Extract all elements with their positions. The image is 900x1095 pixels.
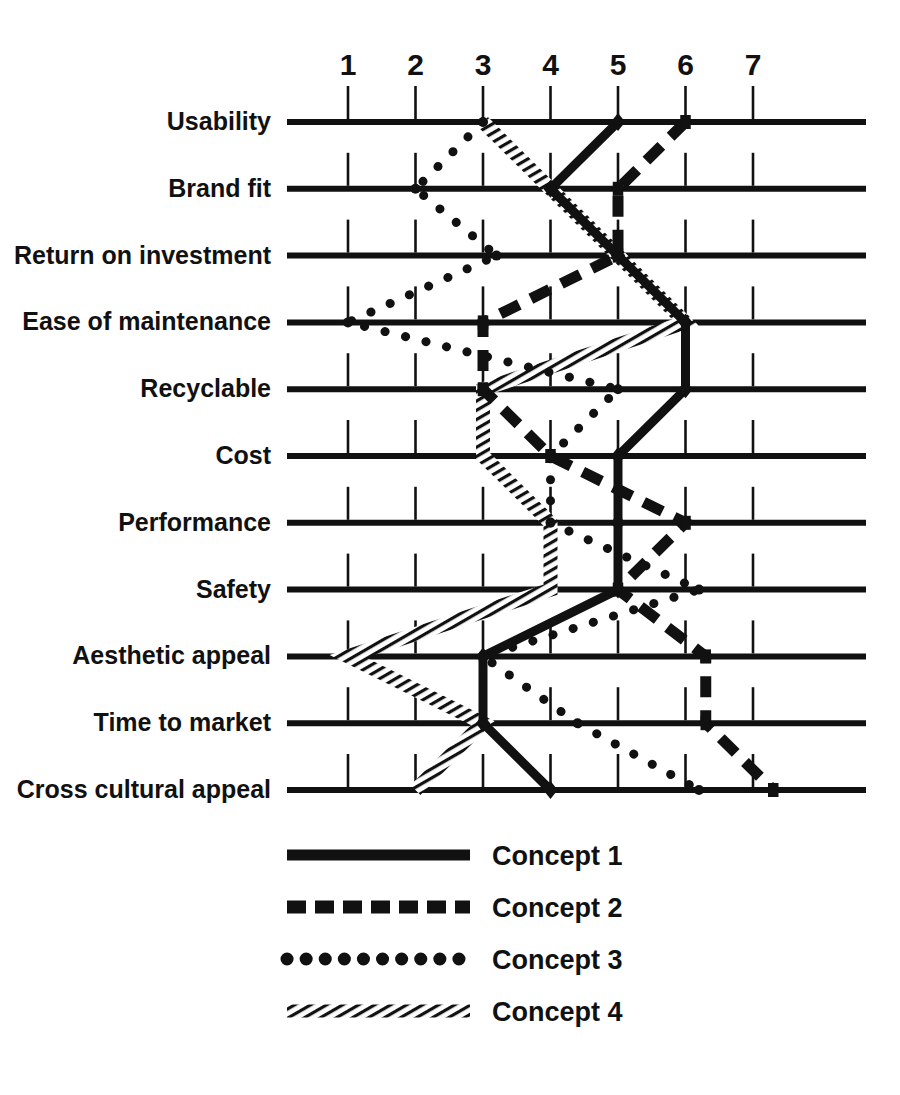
data-point-marker — [694, 585, 704, 595]
criterion-label: Ease of maintenance — [22, 307, 271, 335]
data-point-marker — [492, 251, 502, 261]
data-point-marker — [546, 518, 556, 528]
data-point-marker — [701, 649, 712, 663]
chart-legend: Concept 1Concept 2Concept 3Concept 4 — [287, 841, 623, 1027]
criterion-label: Usability — [167, 107, 271, 135]
criterion-labels: UsabilityBrand fitReturn on investmentEa… — [14, 107, 272, 803]
data-point-marker — [545, 449, 556, 463]
data-point-marker — [768, 783, 779, 797]
x-axis-tick-label: 2 — [407, 48, 424, 81]
data-point-marker — [611, 514, 625, 532]
criterion-label: Aesthetic appeal — [72, 641, 271, 669]
data-point-marker — [701, 716, 712, 730]
criterion-label: Recyclable — [140, 374, 271, 402]
criterion-label: Performance — [118, 508, 271, 536]
data-point-marker — [680, 115, 691, 129]
data-point-marker — [343, 317, 353, 327]
data-point-marker — [478, 315, 489, 329]
data-point-marker — [411, 184, 421, 194]
criterion-label: Time to market — [94, 708, 272, 736]
data-point-marker — [478, 382, 489, 396]
criterion-label: Cost — [215, 441, 271, 469]
x-axis-tick-labels: 1234567 — [340, 48, 762, 81]
criterion-label: Safety — [196, 575, 271, 603]
legend-item[interactable]: Concept 1 — [287, 841, 623, 871]
x-axis-tick-label: 1 — [340, 48, 357, 81]
x-axis-tick-label: 4 — [542, 48, 559, 81]
legend-item[interactable]: Concept 3 — [287, 945, 623, 975]
legend-item[interactable]: Concept 4 — [287, 997, 623, 1027]
x-axis-tick-label: 3 — [475, 48, 492, 81]
legend-label: Concept 4 — [492, 997, 623, 1027]
data-point-marker — [573, 718, 583, 728]
x-axis-tick-label: 5 — [610, 48, 627, 81]
data-point-marker — [613, 182, 624, 196]
chart-plot-area: 1234567 UsabilityBrand fitReturn on inve… — [0, 0, 900, 1095]
pugh-concept-comparison-chart: 1234567 UsabilityBrand fitReturn on inve… — [0, 0, 900, 1095]
criterion-label: Brand fit — [168, 174, 271, 202]
data-point-marker — [478, 117, 488, 127]
x-axis-tick-label: 7 — [745, 48, 762, 81]
legend-item[interactable]: Concept 2 — [287, 893, 623, 923]
criterion-label: Cross cultural appeal — [17, 775, 271, 803]
x-axis-tick-label: 6 — [677, 48, 694, 81]
data-point-marker — [613, 384, 623, 394]
legend-label: Concept 3 — [492, 945, 623, 975]
legend-label: Concept 2 — [492, 893, 623, 923]
data-point-marker — [694, 785, 704, 795]
criterion-label: Return on investment — [14, 241, 272, 269]
data-point-marker — [680, 516, 691, 530]
legend-label: Concept 1 — [492, 841, 623, 871]
